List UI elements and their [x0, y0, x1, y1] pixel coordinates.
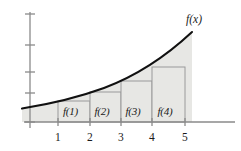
x-axis-tick-label: 3 [118, 132, 124, 144]
x-axis-tick-label: 2 [87, 132, 93, 144]
riemann-sum-figure: f(1)f(2)f(3)f(4) 12345 f(x) [0, 0, 241, 151]
rectangle-label: f(1) [63, 106, 78, 117]
rectangle-label: f(2) [95, 106, 110, 117]
rectangle-label: f(3) [126, 106, 141, 117]
figure-canvas [0, 0, 241, 151]
x-axis-tick-label: 5 [182, 132, 188, 144]
rectangle-label: f(4) [158, 106, 173, 117]
curve-label-fx: f(x) [186, 14, 202, 26]
x-axis-tick-label: 1 [55, 132, 61, 144]
x-axis-tick-label: 4 [149, 132, 155, 144]
